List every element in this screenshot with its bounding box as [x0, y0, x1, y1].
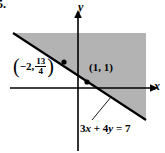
equation-equals: =: [116, 122, 122, 134]
point-label-a: (−2, 13 4 ): [13, 56, 54, 76]
point-marker-b: [84, 79, 89, 84]
axis-label-x: x: [154, 80, 160, 92]
equation-rhs: 7: [125, 122, 131, 134]
point-label-b: (1, 1): [89, 62, 113, 73]
point-label-a-open-paren: (: [13, 56, 20, 76]
fraction-numerator: 13: [35, 57, 46, 66]
inequality-graph-figure: 5. y x (−2, 13 4 ) (1, 1) 3x + 4y = 7: [0, 0, 165, 153]
equation-leader-line: [92, 97, 111, 120]
point-label-a-fraction: 13 4: [35, 57, 46, 76]
axis-label-y: y: [78, 1, 83, 13]
problem-number: 5.: [0, 0, 6, 10]
fraction-denominator: 4: [37, 67, 44, 76]
equation-var-x: x: [86, 122, 92, 134]
point-label-a-close-paren: ): [47, 56, 54, 76]
equation-var-y: y: [108, 122, 113, 134]
equation-label: 3x + 4y = 7: [80, 123, 130, 134]
point-label-a-x: −2,: [20, 61, 35, 72]
point-marker-a: [61, 59, 66, 64]
equation-plus: +: [94, 122, 100, 134]
